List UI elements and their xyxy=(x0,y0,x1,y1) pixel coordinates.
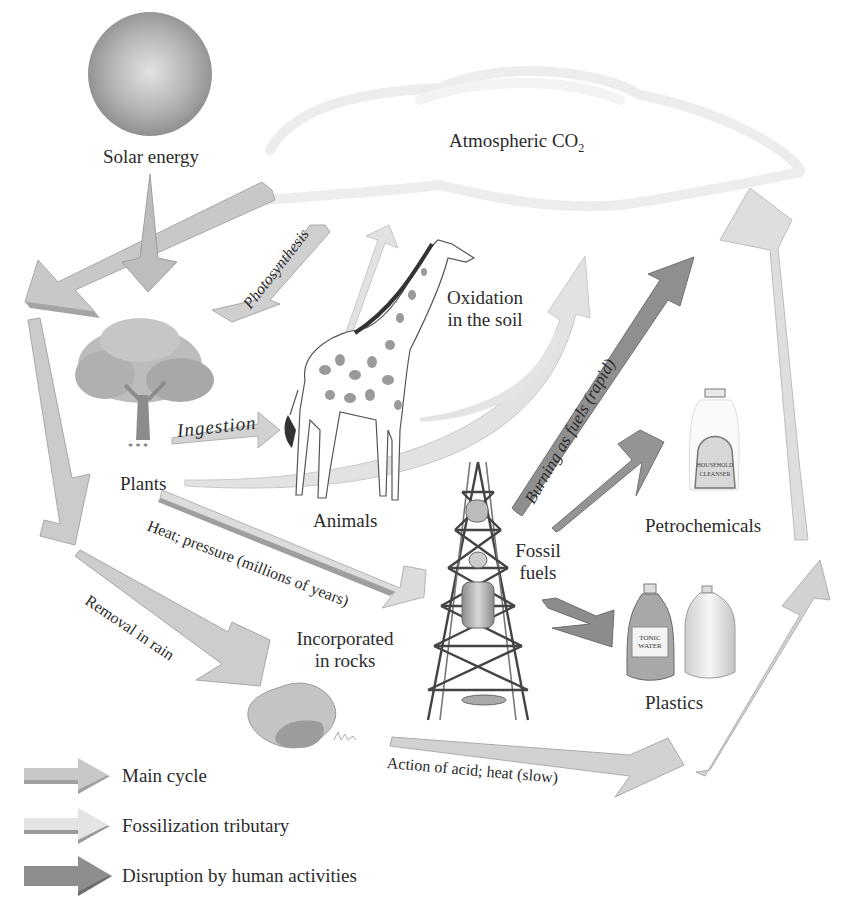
legend-label-main-cycle: Main cycle xyxy=(122,765,207,787)
carbon-cycle-diagram: * * * HOUSEHOLD CLEANSER xyxy=(0,0,857,914)
label-fossil-fuels-line2: fuels xyxy=(508,562,568,584)
svg-text:* * *: * * * xyxy=(128,441,148,452)
label-co2-subscript: 2 xyxy=(578,141,584,155)
giraffe-icon xyxy=(285,240,474,500)
legend-item-main-cycle: Main cycle xyxy=(22,756,207,796)
human-disruption-arrow-icon xyxy=(22,856,114,896)
arrow-left-down xyxy=(28,318,90,545)
label-incorporated-in-rocks: Incorporated in rocks xyxy=(280,628,410,672)
label-oxidation: Oxidation in the soil xyxy=(425,287,545,331)
svg-text:CLEANSER: CLEANSER xyxy=(699,471,730,477)
plastic-bottles-icon: TONIC WATER xyxy=(627,584,735,680)
legend-label-human-disruption: Disruption by human activities xyxy=(122,865,357,887)
svg-text:HOUSEHOLD: HOUSEHOLD xyxy=(697,462,734,468)
svg-text:TONIC: TONIC xyxy=(639,634,661,642)
label-animals: Animals xyxy=(313,510,377,532)
legend-item-human-disruption: Disruption by human activities xyxy=(22,856,357,896)
label-solar-energy: Solar energy xyxy=(86,146,216,168)
legend-label-fossilization-tributary: Fossilization tributary xyxy=(122,815,289,837)
label-atmospheric-co2-text: Atmospheric CO xyxy=(449,130,578,151)
label-rocks-line2: in rocks xyxy=(280,650,410,672)
legend-item-fossilization-tributary: Fossilization tributary xyxy=(22,806,289,846)
label-plants: Plants xyxy=(120,473,166,495)
sun-icon xyxy=(88,12,212,136)
main-cycle-arrow-icon xyxy=(22,756,114,796)
cleanser-bottle-icon: HOUSEHOLD CLEANSER xyxy=(689,389,739,490)
label-rocks-line1: Incorporated xyxy=(280,628,410,650)
rock-icon xyxy=(248,683,356,748)
svg-text:WATER: WATER xyxy=(638,642,662,650)
label-plastics: Plastics xyxy=(645,692,703,714)
label-petrochemicals: Petrochemicals xyxy=(645,515,761,537)
arrow-fuels-to-plastics xyxy=(542,598,614,647)
oil-derrick-icon xyxy=(428,462,528,720)
label-oxidation-line2: in the soil xyxy=(425,309,545,331)
label-oxidation-line1: Oxidation xyxy=(425,287,545,309)
label-fossil-fuels-line1: Fossil xyxy=(508,540,568,562)
label-fossil-fuels: Fossil fuels xyxy=(508,540,568,584)
label-atmospheric-co2: Atmospheric CO2 xyxy=(449,130,584,154)
fossilization-arrow-icon xyxy=(22,806,114,846)
